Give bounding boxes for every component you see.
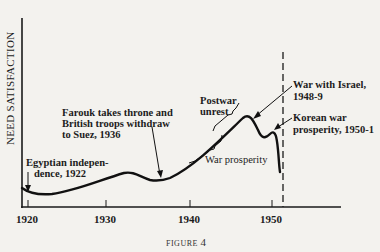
annotation-korea-line2: prosperity, 1950-1 bbox=[293, 124, 374, 135]
tick-label-1920: 1920 bbox=[16, 213, 38, 225]
annotation-korea-line1: Korean war bbox=[293, 112, 347, 123]
y-axis-label: NEED SATISFACTION bbox=[4, 32, 16, 145]
figure-word: FIGURE bbox=[166, 239, 198, 248]
annotation-farouk-line2: British troops withdraw bbox=[62, 118, 170, 129]
annotation-israel-line2: 1948-9 bbox=[293, 91, 323, 102]
annotation-egypt-line1: Egyptian indepen- bbox=[26, 157, 109, 168]
annotation-israel-line1: War with Israel, bbox=[293, 79, 366, 90]
annotation-egypt-line2: dence, 1922 bbox=[34, 168, 86, 179]
annotation-war-prosperity: War prosperity bbox=[205, 154, 267, 165]
figure-number: 4 bbox=[200, 236, 206, 248]
annotation-farouk-line1: Farouk takes throne and bbox=[62, 107, 173, 118]
farouk-arrowhead-icon bbox=[157, 170, 163, 178]
korea-arrow bbox=[278, 118, 292, 127]
tick-label-1940: 1940 bbox=[178, 213, 200, 225]
annotation-postwar-line2: unrest bbox=[200, 106, 228, 117]
israel-arrow bbox=[256, 86, 292, 116]
annotation-postwar-line1: Postwar bbox=[200, 95, 237, 106]
tick-label-1950: 1950 bbox=[260, 213, 282, 225]
korea-arrowhead-icon bbox=[274, 123, 281, 130]
figure-caption: FIGURE 4 bbox=[166, 236, 206, 248]
annotation-farouk-line3: to Suez, 1936 bbox=[62, 129, 121, 140]
farouk-arrow bbox=[152, 127, 160, 175]
tick-label-1930: 1930 bbox=[94, 213, 116, 225]
